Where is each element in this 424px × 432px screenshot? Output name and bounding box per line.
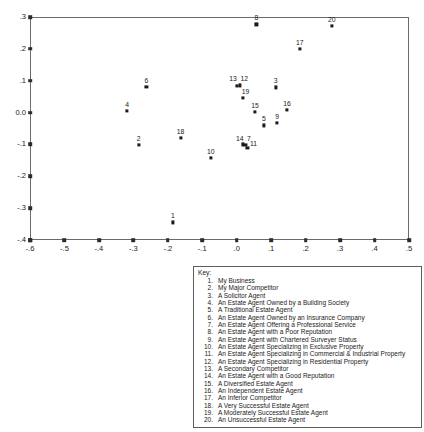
key-item-label: A Very Successful Estate Agent: [218, 402, 421, 409]
key-item: 6.An Estate Agent Owned by an Insurance …: [198, 314, 421, 321]
data-point-label: 5: [262, 115, 266, 122]
data-point: [330, 24, 333, 27]
key-item: 20.An Unsuccessful Estate Agent: [198, 416, 421, 423]
key-item-number: 7.: [198, 321, 218, 328]
key-item: 8.An Estate Agent with a Poor Reputation: [198, 328, 421, 335]
key-item-number: 11.: [198, 350, 218, 357]
key-item-number: 18.: [198, 402, 218, 409]
data-point-label: 10: [207, 148, 215, 155]
x-axis-tick-label: -.6: [26, 245, 35, 253]
y-axis-tick-label: -.2: [17, 172, 26, 180]
data-point-label: 4: [125, 101, 129, 108]
key-item-label: A Moderately Successful Estate Agent: [218, 409, 421, 416]
data-points-layer: 1234567891011121314151617181920: [30, 17, 409, 240]
data-point: [239, 84, 242, 87]
key-item-number: 15.: [198, 380, 218, 387]
data-point: [171, 221, 174, 224]
key-item-number: 8.: [198, 328, 218, 335]
key-item-label: My Business: [218, 277, 421, 284]
data-point: [246, 147, 249, 150]
y-axis-tick-label: .1: [20, 77, 26, 85]
x-axis-tick-label: -.1: [198, 245, 207, 253]
key-item-label: An Independent Estate Agent: [218, 387, 421, 394]
key-item-number: 9.: [198, 336, 218, 343]
key-item-number: 4.: [198, 299, 218, 306]
key-item: 17.An Inferior Competitor: [198, 394, 421, 401]
key-item-number: 17.: [198, 394, 218, 401]
data-point: [235, 85, 238, 88]
key-item-label: An Estate Agent with a Poor Reputation: [218, 328, 421, 335]
data-point-label: 16: [283, 100, 291, 107]
data-point-label: 6: [145, 77, 149, 84]
data-point: [275, 121, 278, 124]
data-point-label: 20: [328, 16, 336, 23]
key-list: 1.My Business2.My Major Competitor3.A So…: [198, 277, 421, 424]
key-item: 14.An Estate Agent with a Good Reputatio…: [198, 372, 421, 379]
key-item-label: A Solicitor Agent: [218, 292, 421, 299]
data-point: [242, 143, 245, 146]
key-item: 1.My Business: [198, 277, 421, 284]
data-point: [253, 111, 256, 114]
data-point-label: 13: [229, 75, 237, 82]
data-point: [241, 96, 244, 99]
key-item: 10.An Estate Agent Specializing in Exclu…: [198, 343, 421, 350]
x-axis-tick-label: .1: [268, 245, 274, 253]
key-item: 13.A Secondary Competitor: [198, 365, 421, 372]
y-axis-tick-label: .2: [20, 45, 26, 53]
data-point: [179, 136, 182, 139]
key-item-number: 13.: [198, 365, 218, 372]
key-item: 16.An Independent Estate Agent: [198, 387, 421, 394]
key-item-label: An Estate Agent Specializing in Exclusiv…: [218, 343, 421, 350]
data-point: [126, 109, 129, 112]
x-axis-tick-label: .2: [302, 245, 308, 253]
key-item-number: 20.: [198, 416, 218, 423]
data-point-label: 18: [177, 128, 185, 135]
data-point-label: 1: [171, 212, 175, 219]
key-item-number: 19.: [198, 409, 218, 416]
data-point: [262, 124, 265, 127]
key-item: 2.My Major Competitor: [198, 284, 421, 291]
key-item-label: An Unsuccessful Estate Agent: [218, 416, 421, 423]
scatter-plot-page: -.6-.5-.4-.3-.2-.1.0.1.2.3.4.5-.4-.3-.2-…: [0, 0, 424, 432]
y-axis-tick-label: -.4: [17, 236, 26, 244]
x-axis-tick-label: .4: [371, 245, 377, 253]
key-item-label: An Estate Agent Specializing in Resident…: [218, 358, 421, 365]
data-point-label: 8: [254, 14, 258, 21]
x-axis-tick-label: .5: [406, 245, 412, 253]
x-axis-tick-label: -.2: [163, 245, 172, 253]
key-title: Key:: [198, 269, 421, 276]
key-item: 15.A Diversified Estate Agent: [198, 380, 421, 387]
x-axis-tick-label: -.5: [60, 245, 69, 253]
key-item-label: An Estate Agent Offering a Professional …: [218, 321, 421, 328]
key-item: 4.An Estate Agent Owned by a Building So…: [198, 299, 421, 306]
key-item: 18.A Very Successful Estate Agent: [198, 402, 421, 409]
data-point-label: 17: [296, 39, 304, 46]
key-item-label: An Estate Agent with Chartered Surveyer …: [218, 336, 421, 343]
data-point-label: 12: [240, 75, 248, 82]
data-point: [285, 108, 288, 111]
data-point-label: 11: [250, 140, 257, 147]
key-item-label: My Major Competitor: [218, 284, 421, 291]
key-item: 9.An Estate Agent with Chartered Surveye…: [198, 336, 421, 343]
scatter-plot: -.6-.5-.4-.3-.2-.1.0.1.2.3.4.5-.4-.3-.2-…: [0, 0, 424, 258]
y-axis-tick-label: .3: [20, 13, 26, 21]
key-item-label: A Traditional Estate Agent: [218, 306, 421, 313]
data-point: [255, 23, 258, 26]
key-item-number: 2.: [198, 284, 218, 291]
key-item-label: An Estate Agent Specializing in Commerci…: [218, 350, 421, 357]
key-item-label: An Estate Agent Owned by a Building Soci…: [218, 299, 421, 306]
key-item: 12.An Estate Agent Specializing in Resid…: [198, 358, 421, 365]
key-item: 11.An Estate Agent Specializing in Comme…: [198, 350, 421, 357]
key-item-label: A Diversified Estate Agent: [218, 380, 421, 387]
key-item-number: 14.: [198, 372, 218, 379]
key-item: 3.A Solicitor Agent: [198, 292, 421, 299]
data-point: [209, 157, 212, 160]
key-item-label: An Estate Agent with a Good Reputation: [218, 372, 421, 379]
data-point: [298, 47, 301, 50]
x-axis-tick-label: .3: [337, 245, 343, 253]
data-point-label: 9: [275, 113, 279, 120]
key-item-number: 12.: [198, 358, 218, 365]
key-item-label: An Estate Agent Owned by an Insurance Co…: [218, 314, 421, 321]
key-item-number: 1.: [198, 277, 218, 284]
data-point-label: 15: [251, 102, 259, 109]
